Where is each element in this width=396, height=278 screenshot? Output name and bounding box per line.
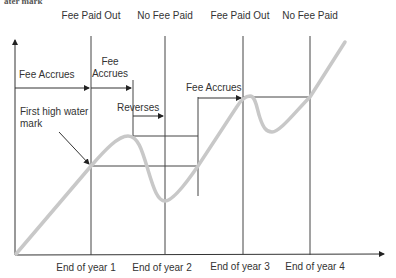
first-hwm-label-line2: mark (20, 118, 43, 129)
x-label-year-4: End of year 4 (285, 261, 345, 272)
high-water-mark-diagram: ater mark Fee Paid Out No Fee Paid Fee P… (0, 0, 396, 278)
first-hwm-label-line1: First high water (20, 106, 89, 117)
fee-accrues-label-2b: Accrues (92, 68, 128, 79)
top-label-year-1: Fee Paid Out (62, 10, 121, 21)
top-label-year-2: No Fee Paid (137, 10, 193, 21)
fee-accrues-label-3: Fee Accrues (186, 82, 242, 93)
fee-accrues-label-2a: Fee (101, 56, 119, 67)
fee-accrues-label-1: Fee Accrues (19, 69, 75, 80)
first-hwm-pointer-arrow (59, 132, 89, 164)
x-label-year-1: End of year 1 (56, 262, 116, 273)
x-axis (15, 254, 384, 255)
top-label-year-3: Fee Paid Out (211, 10, 270, 21)
x-label-year-2: End of year 2 (132, 262, 192, 273)
reverses-label: Reverses (117, 102, 159, 113)
x-label-year-3: End of year 3 (210, 261, 270, 272)
top-label-year-4: No Fee Paid (282, 10, 338, 21)
header-fragment: ater mark (4, 0, 43, 6)
